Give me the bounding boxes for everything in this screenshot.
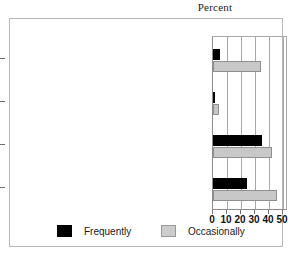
legend-label-occasionally: Occasionally xyxy=(188,226,245,237)
legend-item-frequently: Frequently xyxy=(57,222,131,240)
bar-occasionally-0 xyxy=(213,61,261,72)
category-tick-3 xyxy=(0,187,5,188)
plot-area: Hispanics use rude names/remarks Hispani… xyxy=(212,36,287,210)
bar-occasionally-2 xyxy=(213,147,272,158)
bar-frequently-3 xyxy=(213,178,247,189)
bar-group-0: Hispanics use rude names/remarks xyxy=(213,42,286,85)
chart-outer-frame: Hispanics use rude names/remarks Hispani… xyxy=(9,18,283,247)
bar-frequently-2 xyxy=(213,135,262,146)
category-tick-1 xyxy=(0,101,5,102)
chart-legend: Frequently Occasionally xyxy=(9,220,283,246)
bar-frequently-1 xyxy=(213,92,215,103)
black-square-swatch-icon xyxy=(57,225,72,237)
chart-title: Percent xyxy=(150,1,280,13)
legend-label-frequently: Frequently xyxy=(84,226,131,237)
legend-item-occasionally: Occasionally xyxy=(161,222,245,240)
chart-figure: Percent Hispanics use rude names/remarks… xyxy=(0,0,293,257)
bar-group-3: Hispanics include us in traditional cele… xyxy=(213,171,286,214)
bar-group-2: We visit socially with Hispanics xyxy=(213,128,286,171)
bar-frequently-0 xyxy=(213,49,220,60)
bar-group-1: Hispanics exclude us from clubs, etc. xyxy=(213,85,286,128)
category-tick-2 xyxy=(0,144,5,145)
bar-occasionally-1 xyxy=(213,104,219,115)
gray-square-swatch-icon xyxy=(161,225,176,237)
bar-occasionally-3 xyxy=(213,190,277,201)
category-tick-0 xyxy=(0,58,5,59)
